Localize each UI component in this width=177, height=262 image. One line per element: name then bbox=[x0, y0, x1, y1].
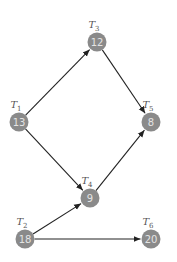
node-t4: 9T4 bbox=[81, 175, 100, 208]
node-value: 8 bbox=[148, 117, 154, 128]
edge-t2-t4 bbox=[33, 204, 81, 234]
node-value: 12 bbox=[91, 37, 104, 48]
task-graph: 13T118T212T39T48T520T6 bbox=[0, 0, 177, 262]
nodes: 13T118T212T39T48T520T6 bbox=[10, 19, 161, 249]
node-label: T5 bbox=[142, 99, 153, 113]
node-label: T6 bbox=[142, 216, 154, 230]
node-t3: 12T3 bbox=[88, 19, 107, 52]
edge-t3-t5 bbox=[102, 50, 145, 113]
node-label: T3 bbox=[88, 19, 99, 33]
node-value: 20 bbox=[145, 234, 158, 245]
edge-t4-t5 bbox=[96, 130, 144, 190]
node-value: 9 bbox=[87, 193, 93, 204]
node-label: T1 bbox=[10, 99, 21, 113]
node-label: T2 bbox=[16, 216, 27, 230]
node-t5: 8T5 bbox=[142, 99, 161, 132]
node-t6: 20T6 bbox=[142, 216, 161, 249]
node-t2: 18T2 bbox=[16, 216, 35, 249]
node-value: 18 bbox=[19, 234, 32, 245]
edge-t1-t4 bbox=[25, 129, 82, 190]
edges bbox=[25, 50, 145, 239]
node-label: T4 bbox=[81, 175, 93, 189]
node-value: 13 bbox=[13, 117, 26, 128]
edge-t1-t3 bbox=[26, 50, 90, 116]
